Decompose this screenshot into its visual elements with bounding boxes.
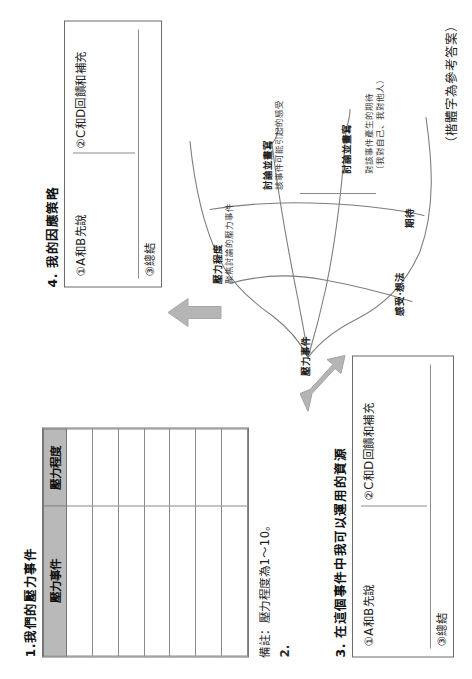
cell-level[interactable] [170, 429, 196, 506]
cell-event[interactable] [92, 506, 118, 656]
column-header-level: 壓力程度 [44, 429, 67, 506]
cell-level[interactable] [118, 429, 144, 506]
table-body [67, 429, 248, 656]
cell-event[interactable] [170, 506, 196, 656]
table-row[interactable] [222, 429, 248, 656]
table-header-row: 壓力事件 壓力程度 [44, 429, 67, 656]
table-row[interactable] [196, 429, 222, 656]
mind-map-branch-2: 討論並畫寫 該事件可能引起的感受 [262, 99, 285, 189]
mind-map-branch-1: 感受‧想法 [394, 272, 406, 315]
mind-map-branch-3: 期待 [404, 207, 416, 227]
box4-slot-3-label: ③總結 [141, 242, 157, 276]
table-row[interactable] [170, 429, 196, 656]
box4-slot-2-label: ②C和D回饋和補充 [72, 51, 88, 149]
cell-event[interactable] [196, 506, 222, 656]
box4-horizontal-divider [138, 29, 139, 278]
mind-map: 壓力事件 壓力程度 聚焦討論的壓力事件 感受‧想法 討論並畫寫 該事件可能引起的… [180, 39, 440, 379]
mind-map-branch-4: 討論並畫寫 對該事件產生的期待 （我對自己、我對他人） [330, 74, 397, 173]
section-3-title: 3. 在這個事件中我可以運用的資源 [330, 447, 349, 657]
box3-horizontal-divider [430, 364, 431, 648]
footer-note: （楷體字為參考答案） [441, 18, 460, 148]
section-1-title: 1.我們的壓力事件 [20, 547, 39, 657]
cell-event[interactable] [144, 506, 170, 656]
table-row[interactable] [118, 429, 144, 656]
box3-slot-2-label: ②C和D回饋和補充 [360, 402, 376, 500]
cell-event[interactable] [222, 506, 248, 656]
cell-level[interactable] [92, 429, 118, 506]
table-row[interactable] [144, 429, 170, 656]
cell-event[interactable] [67, 506, 93, 656]
section-3-worksheet-box[interactable]: ①A和B先說 ②C和D回饋和補充 ③總結 [352, 355, 454, 657]
table-note: 備註：壓力程度為1～10。 [256, 519, 272, 657]
cell-event[interactable] [118, 506, 144, 656]
table-row[interactable] [92, 429, 118, 656]
worksheet-page: 1.我們的壓力事件 壓力事件 壓力程度 備註：壓力程度為1～10。 2. 3. … [0, 0, 472, 679]
mind-map-center-node: 壓力事件 [300, 335, 312, 375]
box3-slot-3-label: ③總結 [433, 612, 449, 646]
table-row[interactable] [67, 429, 93, 656]
cell-level[interactable] [144, 429, 170, 506]
cell-level[interactable] [67, 429, 93, 506]
box3-slot-1-label: ①A和B先說 [360, 584, 376, 646]
section-2-title: 2. [278, 644, 292, 657]
box4-vertical-divider [73, 153, 135, 154]
box4-slot-1-label: ①A和B先說 [72, 214, 88, 276]
section-4-worksheet-box[interactable]: ①A和B先說 ②C和D回饋和補充 ③總結 [64, 20, 162, 287]
box3-vertical-divider [361, 505, 427, 506]
section-4-title: 4. 我的因應策略 [42, 186, 61, 287]
cell-level[interactable] [196, 429, 222, 506]
stress-events-table: 壓力事件 壓力程度 [42, 427, 249, 657]
mind-map-branch-0: 壓力程度 聚焦討論的壓力事件 [212, 202, 235, 283]
cell-level[interactable] [222, 429, 248, 506]
column-header-event: 壓力事件 [44, 506, 67, 656]
